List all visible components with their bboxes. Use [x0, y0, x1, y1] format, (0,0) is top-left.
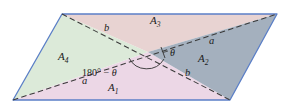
region-label-a2-text: A [198, 52, 205, 64]
supplement-operator: − [101, 67, 112, 78]
region-label-a1-sub: 1 [115, 87, 119, 96]
angle-label-theta: θ [170, 48, 175, 58]
supplement-theta: θ [112, 67, 117, 78]
region-label-a2-sub: 2 [205, 58, 209, 67]
side-label-a-right: a [209, 36, 214, 47]
figure-canvas [0, 0, 287, 108]
angle-label-supplement: 180° − θ [82, 68, 117, 78]
region-label-a2: A2 [198, 53, 208, 67]
region-label-a3-text: A [150, 14, 157, 26]
region-label-a4: A4 [58, 51, 68, 65]
region-label-a1-text: A [108, 81, 115, 93]
region-label-a4-text: A [58, 50, 65, 62]
region-label-a1: A1 [108, 82, 118, 96]
side-label-b-top: b [104, 23, 109, 34]
supplement-number: 180 [82, 67, 97, 78]
side-label-b-lower-right: b [185, 68, 190, 79]
region-label-a3: A3 [150, 15, 160, 29]
geometry-figure: A1 A2 A3 A4 b a b a θ 180° − θ [0, 0, 287, 108]
region-label-a4-sub: 4 [65, 56, 69, 65]
region-label-a3-sub: 3 [157, 20, 161, 29]
